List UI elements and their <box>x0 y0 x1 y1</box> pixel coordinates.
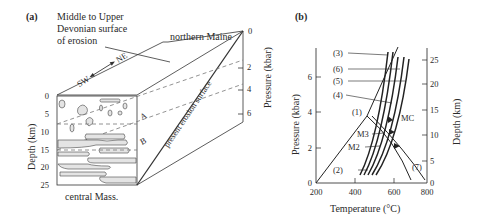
pressure-tick-2: 2 <box>247 62 251 72</box>
depth-tick-5: 5 <box>45 109 49 119</box>
erosion-surface-label: present erosion surface <box>161 78 213 149</box>
y-right-axis-label: Depth (km) <box>451 99 463 145</box>
line-b-label: B <box>138 135 148 147</box>
panel-a-label: (a) <box>26 11 38 23</box>
depth-axis: 0 5 10 15 20 25 Depth (km) <box>26 91 49 190</box>
line-a-label: A <box>138 110 149 122</box>
pressure-tick-4: 4 <box>247 84 252 94</box>
zone-label-m3: M3 <box>357 129 369 139</box>
pressure-tick-0: 0 <box>248 26 252 36</box>
p-tick-6: 6 <box>308 72 312 82</box>
zone-label-m2: M2 <box>348 142 360 152</box>
sw-label: SW <box>75 74 91 89</box>
depth-tick-10: 10 <box>41 127 50 137</box>
central-mass-label: central Mass. <box>65 191 118 202</box>
curve-label-6: (6) <box>333 64 343 74</box>
depth-tick-0: 0 <box>45 91 49 101</box>
panel-b-label: (b) <box>295 11 307 23</box>
t-tick-200: 200 <box>310 187 323 197</box>
double-arrow-icon <box>91 62 113 76</box>
title-line-1: Middle to Upper <box>57 11 124 22</box>
d-tick-0: 0 <box>430 178 434 188</box>
d-tick-20: 20 <box>430 79 439 89</box>
t-tick-400: 400 <box>349 187 362 197</box>
y-axis-label: Pressure (kbar) <box>290 94 302 155</box>
depth-tick-20: 20 <box>41 162 50 172</box>
title-line-3: of erosion <box>57 35 97 46</box>
zone-label-mc: MC <box>401 113 415 123</box>
figure-canvas: (a) Middle to Upper Devonian surface of … <box>0 0 478 224</box>
curve-label-5: (5) <box>333 76 343 86</box>
curve-label-1: (1) <box>352 107 362 117</box>
curve-label-4: (4) <box>333 90 343 100</box>
depth-axis-label: Depth (km) <box>26 124 38 170</box>
d-tick-5: 5 <box>430 156 434 166</box>
pressure-axis-label: Pressure (kbar) <box>262 47 274 108</box>
p-tick-4: 4 <box>308 107 313 117</box>
depth-tick-25: 25 <box>41 180 50 190</box>
p-tick-2: 2 <box>308 143 312 153</box>
depth-tick-15: 15 <box>41 145 50 155</box>
plutons <box>58 99 136 183</box>
t-tick-600: 600 <box>388 187 401 197</box>
curve-label-2: (2) <box>333 165 343 175</box>
top-face-back-edge <box>57 42 168 95</box>
panel-b: (b) 0 2 4 6 200 400 600 800 0 5 10 15 20… <box>290 11 463 215</box>
x-axis-label: Temperature (°C) <box>330 203 400 215</box>
t-tick-800: 800 <box>421 187 434 197</box>
pressure-tick-6: 6 <box>247 108 251 118</box>
side-bottom-edge <box>137 122 243 185</box>
d-tick-15: 15 <box>430 105 439 115</box>
d-tick-25: 25 <box>430 55 439 65</box>
curve-label-3: (3) <box>333 48 343 58</box>
sw-ne-indicator: SW NE <box>75 50 129 89</box>
title-line-2: Devonian surface <box>57 23 128 34</box>
curve-label-7: (7) <box>412 162 422 172</box>
figure: (a) Middle to Upper Devonian surface of … <box>0 0 478 224</box>
d-tick-10: 10 <box>430 130 439 140</box>
panel-a: (a) Middle to Upper Devonian surface of … <box>26 11 274 202</box>
